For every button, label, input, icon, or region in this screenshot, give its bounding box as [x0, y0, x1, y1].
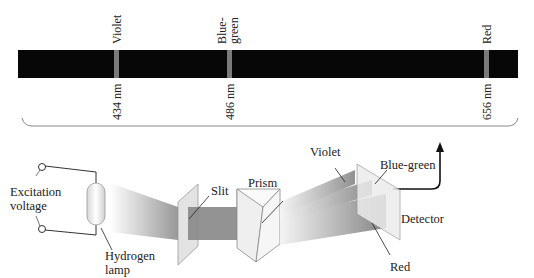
label-violet-beam: Violet	[310, 145, 341, 159]
label-excitation-voltage: Excitation voltage	[10, 185, 61, 213]
lamp-line2: lamp	[105, 263, 155, 277]
label-prism: Prism	[248, 176, 277, 190]
label-slit: Slit	[211, 184, 228, 198]
bracket-connector	[22, 118, 518, 126]
hydrogen-lamp-icon	[87, 183, 105, 225]
arrow-up-icon	[436, 142, 444, 152]
label-detector: Detector	[401, 212, 444, 226]
terminal-bottom-icon	[39, 226, 46, 233]
label-red-beam: Red	[390, 260, 410, 274]
excitation-line1: Excitation	[10, 185, 61, 199]
excitation-line2: voltage	[10, 199, 61, 213]
lamp-line1: Hydrogen	[105, 249, 155, 263]
terminal-top-icon	[39, 164, 46, 171]
label-hydrogen-lamp: Hydrogen lamp	[105, 249, 155, 277]
spectroscope-diagram	[0, 0, 534, 278]
label-blue-green-beam: Blue-green	[380, 158, 436, 172]
